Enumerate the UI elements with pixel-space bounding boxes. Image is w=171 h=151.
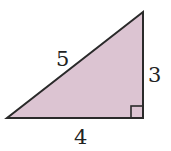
triangle-diagram: 5 3 4 — [0, 0, 171, 151]
horizontal-leg-label: 4 — [74, 125, 87, 149]
right-triangle — [7, 12, 143, 118]
vertical-leg-label: 3 — [148, 63, 161, 87]
hypotenuse-label: 5 — [56, 47, 69, 71]
